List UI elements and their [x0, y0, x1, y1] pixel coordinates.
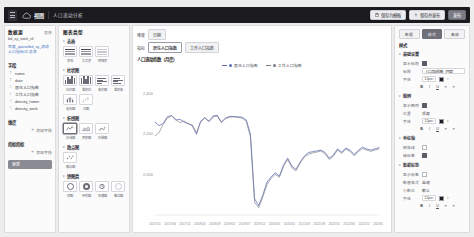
title-font-size-select[interactable]: 12px ▾ — [422, 76, 436, 83]
label-color-swatch[interactable] — [439, 196, 444, 201]
show-data-label-checkbox[interactable] — [422, 172, 427, 177]
show-title-checkbox[interactable] — [422, 61, 427, 66]
chart-type-donut[interactable]: 环形图 — [79, 181, 93, 198]
italic-button[interactable]: I — [427, 85, 432, 89]
group-header[interactable]: ▾ 折线图 — [63, 115, 125, 121]
chart-type-step[interactable]: 阶梯图 — [95, 123, 109, 140]
align-left-button[interactable]: ≡ — [443, 127, 448, 131]
chevron-down-icon: ▾ — [399, 136, 401, 140]
chevron-down-icon[interactable]: ▾ — [447, 196, 449, 200]
line-chart[interactable]: 2,0002,2002,4002017/012017/062017/112018… — [137, 69, 387, 229]
align-center-button[interactable]: ≡ — [451, 127, 456, 131]
chart-type-area[interactable]: 面积图 — [79, 123, 93, 140]
chevron-down-icon: ▾ — [63, 145, 65, 149]
chart-type-scatter[interactable]: 散点图 — [63, 152, 77, 169]
change-data-source-link[interactable]: 更换 — [44, 30, 52, 35]
group-header[interactable]: ▾ 数据标签 — [399, 162, 465, 168]
chart-type-combo[interactable]: 组合图 — [63, 94, 77, 111]
field-item[interactable]: # density_work — [8, 105, 52, 112]
save-and-publish-button[interactable]: 保存并发布 — [409, 10, 445, 20]
underline-button[interactable]: U — [435, 127, 440, 131]
decimals-value[interactable]: 默认 — [422, 188, 430, 193]
title-text-input[interactable]: 人口流动指数（月度） — [422, 68, 465, 75]
chart-type-radar[interactable]: 雷达图 — [111, 181, 125, 198]
data-source-path[interactable]: 百度_qianxi/bd_xy_流动人口指标/汇总表 — [8, 45, 52, 56]
chart-type-grid: 折线图 面积图 阶梯图 — [63, 123, 125, 140]
chart-type-caption: 柱状图 — [63, 87, 77, 92]
publish-button[interactable]: 发布 — [448, 10, 466, 20]
bold-button[interactable]: B — [419, 127, 424, 131]
italic-button[interactable]: I — [427, 127, 432, 131]
group-header[interactable]: ▾ 表格 — [63, 38, 125, 44]
chart-type-stacked-bar[interactable]: 堆积条 — [111, 75, 125, 92]
tab-style[interactable]: 样式 — [422, 29, 443, 39]
fields-section-title: 字段 — [8, 62, 52, 68]
group-header[interactable]: ▾ 散点图 — [63, 144, 125, 150]
underline-button[interactable]: U — [435, 204, 440, 208]
group-header[interactable]: ▾ 柱状图 — [63, 67, 125, 73]
align-left-button[interactable]: ≡ — [443, 204, 448, 208]
align-left-button[interactable]: ≡ — [443, 85, 448, 89]
field-item[interactable]: # 工作人口指数 — [8, 91, 52, 98]
chart-type-rose[interactable]: 玫瑰图 — [95, 181, 109, 198]
chart-type-pivot-table[interactable]: 交叉表 — [79, 46, 93, 63]
style-group-basic: ▾ 基础设置 显示标题 标题 人口流动指数（月度） 字体 12px ▾ — [399, 51, 465, 90]
style-group-axis: ▾ 坐标轴 网格线 轴标签 — [399, 135, 465, 159]
field-label: 居住人口指数 — [15, 84, 39, 90]
underline-button[interactable]: U — [435, 85, 440, 89]
update-button-label: 更新 — [12, 161, 20, 167]
hamburger-icon[interactable] — [8, 10, 17, 21]
chevron-down-icon[interactable]: ▾ — [447, 119, 449, 123]
legend-color-swatch[interactable] — [439, 119, 444, 124]
chart-type-detail-table[interactable]: 明细表 — [95, 46, 109, 63]
add-metric-field-button[interactable]: + 添加字段 — [8, 149, 52, 156]
align-center-button[interactable]: ≡ — [451, 85, 456, 89]
chevron-down-icon: ▾ — [399, 163, 401, 167]
chart-type-caption: 环形图 — [79, 193, 93, 198]
title-color-swatch[interactable] — [439, 77, 444, 82]
axis-label-checkbox[interactable] — [422, 153, 427, 158]
save-as-template-button[interactable]: 保存为模板 — [370, 10, 406, 20]
group-header[interactable]: ▾ 基础设置 — [399, 51, 465, 57]
group-header[interactable]: ▾ 饼图类 — [63, 173, 125, 179]
chart-type-column[interactable]: 柱状图 — [63, 75, 77, 92]
gridline-checkbox[interactable] — [422, 145, 427, 150]
label-font-size-select[interactable]: 12px ▾ — [422, 195, 436, 202]
add-dimension-field-button[interactable]: + 添加字段 — [8, 127, 52, 134]
chart-type-line[interactable]: 折线图 — [63, 123, 77, 140]
group-header[interactable]: ▾ 坐标轴 — [399, 135, 465, 141]
chart-type-stacked-column[interactable]: 堆积柱 — [79, 75, 93, 92]
chart-type-grid: 散点图 — [63, 152, 125, 169]
tab-data[interactable]: 数据 — [399, 29, 420, 39]
field-item[interactable]: T date — [8, 77, 52, 84]
legend-item-series1[interactable]: 居住人口指数 — [222, 63, 258, 68]
field-item[interactable]: T name — [8, 70, 52, 77]
chart-type-pie[interactable]: 饼图 — [63, 181, 77, 198]
legend-format-toolbar: B I U ≡ ≡ — [399, 125, 465, 132]
field-item[interactable]: # density_home — [8, 98, 52, 105]
row-label: 网格线 — [403, 145, 419, 150]
align-center-button[interactable]: ≡ — [451, 204, 456, 208]
group-label: 图例 — [403, 93, 411, 99]
legend-item-series2[interactable]: 工作人口指数 — [266, 63, 302, 68]
legend-position-value[interactable]: 顶部 — [422, 111, 430, 116]
tab-advanced[interactable]: 高级 — [444, 29, 465, 39]
bold-button[interactable]: B — [419, 85, 424, 89]
italic-button[interactable]: I — [427, 204, 432, 208]
field-item[interactable]: # 居住人口指数 — [8, 84, 52, 91]
group-header[interactable]: ▾ 图例 — [399, 93, 465, 99]
view-subtitle: 人口流动分析 — [53, 12, 83, 18]
metric-chip-resident[interactable]: 居住人口指数 — [148, 42, 182, 53]
update-button[interactable]: 更新 — [8, 160, 52, 169]
metric-chip-work[interactable]: 工作人口指数 — [185, 42, 219, 53]
chart-type-table[interactable]: 表格 — [63, 46, 77, 63]
bold-button[interactable]: B — [419, 204, 424, 208]
column-chart-icon — [63, 75, 77, 86]
chart-type-bar[interactable]: 条形图 — [95, 75, 109, 92]
legend-font-size-select[interactable]: 12px ▾ — [422, 118, 436, 125]
dimension-chip-date[interactable]: 日期 — [148, 29, 166, 40]
number-format-value[interactable]: 自动 — [422, 180, 430, 185]
chevron-down-icon[interactable]: ▾ — [447, 77, 449, 81]
chart-type-waterfall[interactable]: 測图 — [79, 94, 93, 111]
show-legend-checkbox[interactable] — [422, 103, 427, 108]
